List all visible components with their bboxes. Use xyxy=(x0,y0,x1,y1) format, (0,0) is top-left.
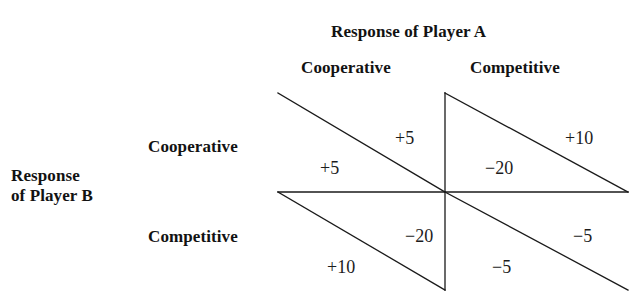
payoff-value-q4-lower: −5 xyxy=(492,257,511,278)
payoff-value-q2-lower: −20 xyxy=(485,158,513,179)
diagonal-upper-left xyxy=(278,93,445,192)
payoff-value-q1-upper: +5 xyxy=(395,128,414,149)
matrix-line-art xyxy=(0,0,642,304)
payoff-value-q4-upper: −5 xyxy=(573,226,592,247)
payoff-matrix-figure: Response of Player A Cooperative Competi… xyxy=(0,0,642,304)
payoff-value-q1-lower: +5 xyxy=(320,158,339,179)
diagonal-lower-right xyxy=(445,192,628,290)
payoff-value-q3-lower: +10 xyxy=(327,257,355,278)
diagonal-upper-right xyxy=(445,93,628,192)
payoff-value-q3-upper: −20 xyxy=(405,226,433,247)
payoff-value-q2-upper: +10 xyxy=(565,128,593,149)
